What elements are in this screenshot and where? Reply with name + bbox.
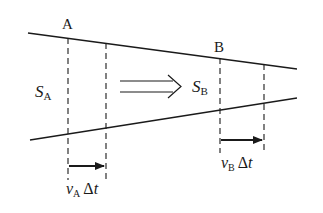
time-a-symbol: t	[94, 180, 99, 197]
time-b-symbol: t	[248, 154, 253, 171]
delta-a-symbol: Δ	[83, 180, 93, 197]
area-b-label: SB	[192, 77, 208, 97]
displacement-a-label: vAΔt	[66, 180, 99, 199]
area-b-subscript: B	[201, 85, 208, 97]
velocity-a-subscript: A	[73, 188, 81, 199]
displacement-b-label: vBΔt	[221, 154, 253, 173]
velocity-b-subscript: B	[228, 162, 235, 173]
tube-bottom-wall	[30, 98, 297, 140]
point-b-label: B	[214, 39, 224, 55]
flow-double-arrow-icon	[120, 75, 181, 98]
area-a-subscript: A	[44, 90, 52, 102]
flow-tube-diagram: A B SA SB vAΔt vBΔt	[0, 0, 323, 213]
delta-b-symbol: Δ	[238, 154, 248, 171]
area-a-label: SA	[35, 82, 52, 102]
point-a-label: A	[62, 16, 73, 32]
